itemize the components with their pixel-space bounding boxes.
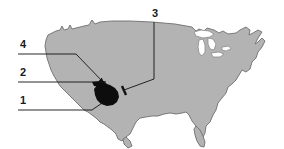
callout-label-1[interactable]: 1 xyxy=(20,94,26,106)
texas-tip xyxy=(123,137,132,148)
lake-michigan xyxy=(198,39,205,56)
map-svg: 1 2 3 4 xyxy=(0,0,284,149)
callout-label-3[interactable]: 3 xyxy=(152,7,158,19)
callout-label-2[interactable]: 2 xyxy=(20,66,26,78)
us-mainland-shape xyxy=(45,20,265,142)
us-map-group xyxy=(45,20,265,148)
callout-label-4[interactable]: 4 xyxy=(20,38,27,50)
map-figure: 1 2 3 4 xyxy=(0,0,284,149)
